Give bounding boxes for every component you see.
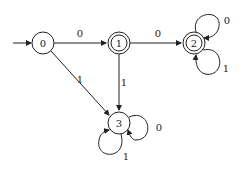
state-0-label: 0 <box>40 38 46 49</box>
state-1-label: 1 <box>116 38 122 49</box>
loop-2-0-label: 0 <box>224 15 230 26</box>
edge-0-1-label: 0 <box>77 28 83 39</box>
state-3: 3 <box>108 112 130 134</box>
loop-3-0 <box>128 115 148 140</box>
state-diagram: 0 1 2 3 0 0 1 1 0 1 0 1 <box>0 0 244 171</box>
loop-2-0 <box>195 14 219 38</box>
state-1: 1 <box>108 32 130 54</box>
state-2: 2 <box>183 32 205 54</box>
edge-1-2-label: 0 <box>155 28 161 39</box>
loop-3-0-label: 0 <box>156 122 162 133</box>
edge-0-3-label: 1 <box>77 74 83 85</box>
state-2-label: 2 <box>191 38 197 49</box>
loop-2-1-label: 1 <box>223 63 229 74</box>
loop-2-1 <box>196 49 220 74</box>
loop-3-1-label: 1 <box>123 151 129 162</box>
state-0: 0 <box>32 32 54 54</box>
edge-1-3-label: 1 <box>121 77 127 88</box>
state-3-label: 3 <box>116 118 122 129</box>
